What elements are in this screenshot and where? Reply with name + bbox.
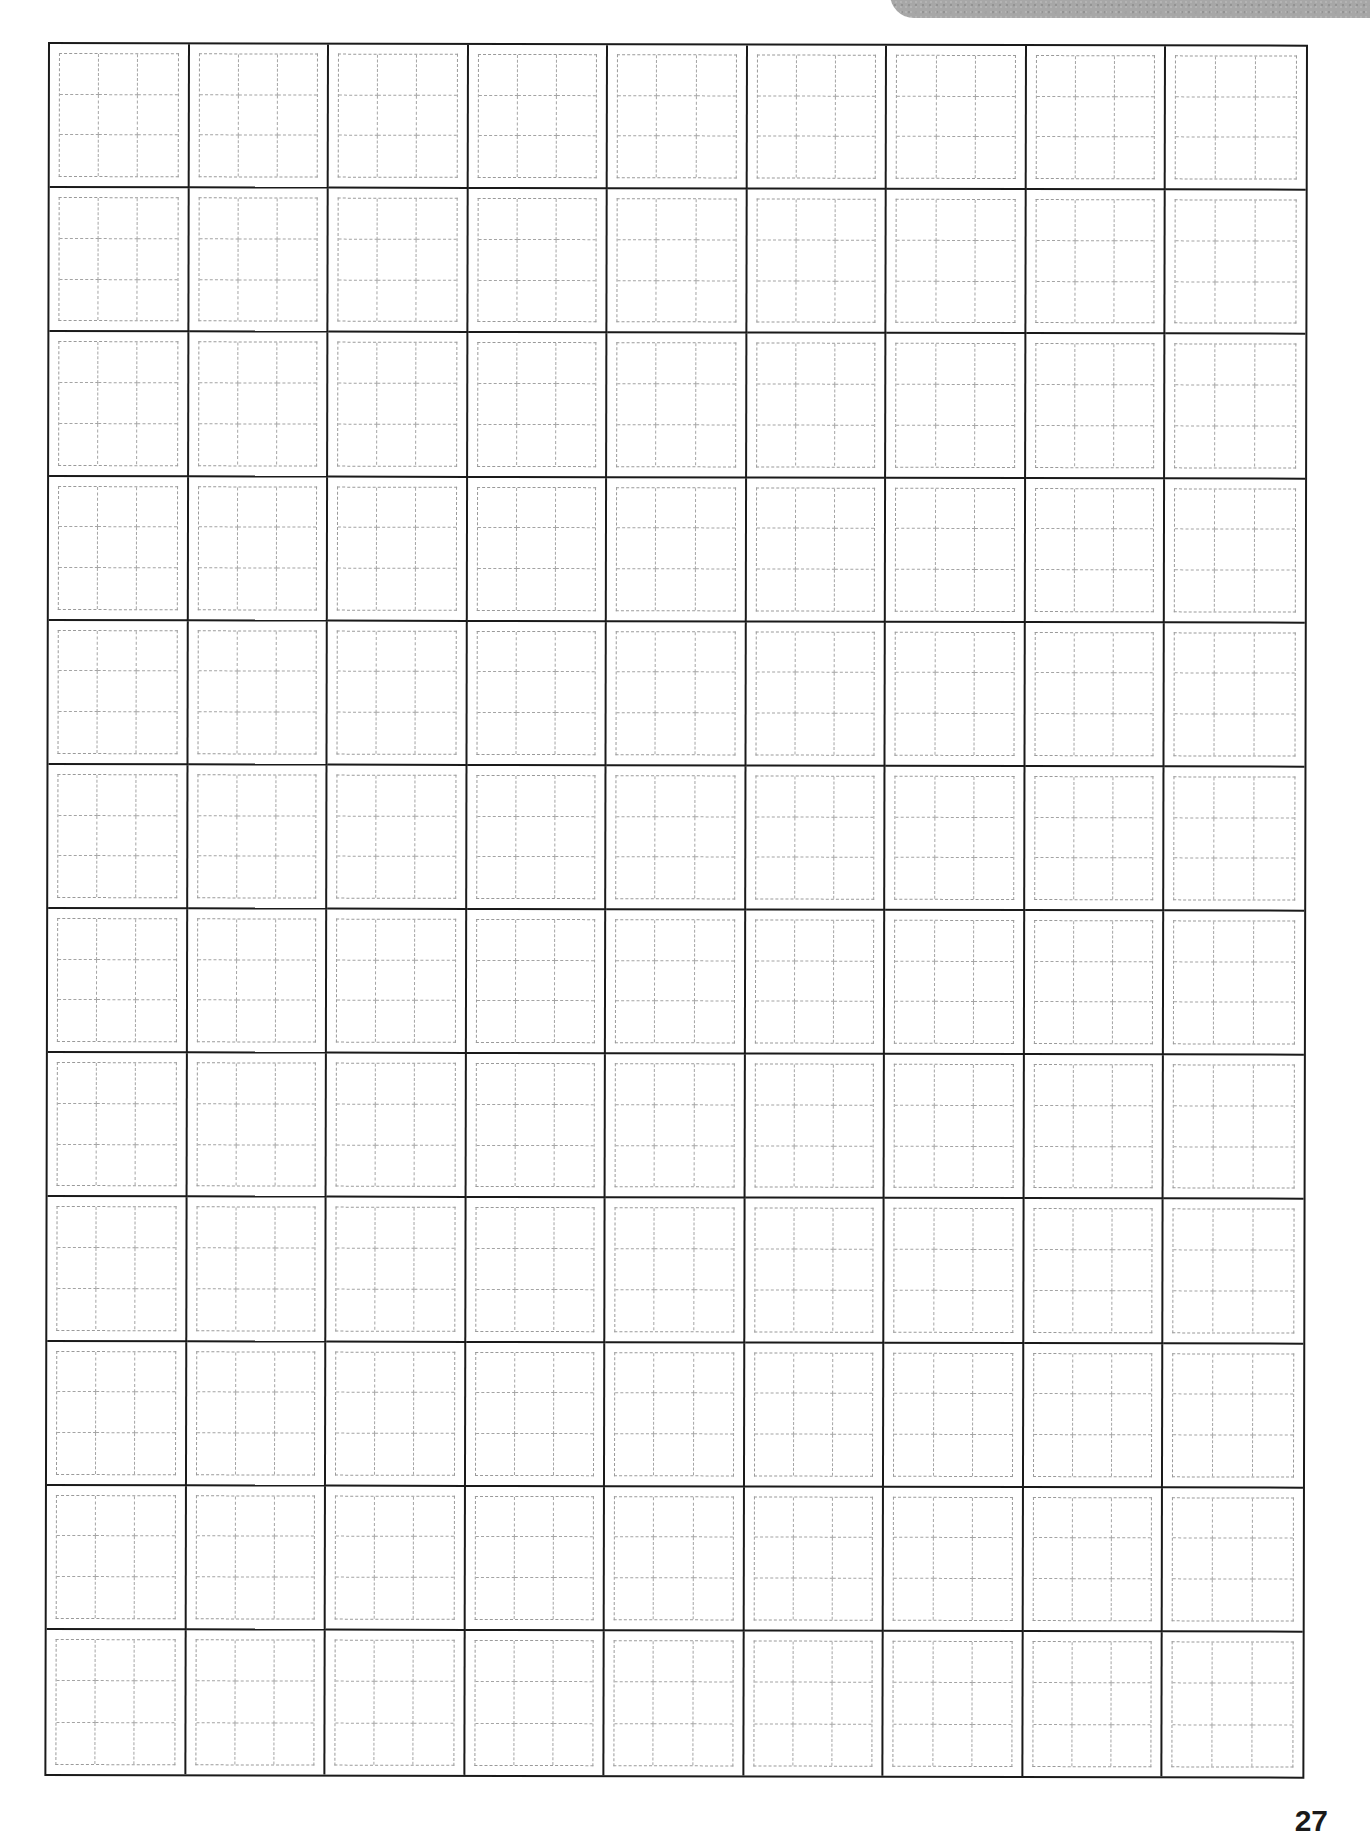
cell-guide-square — [1073, 1683, 1112, 1724]
cell-guide-square — [277, 631, 316, 672]
cell-guide-square — [138, 280, 177, 321]
cell-guide-square — [96, 1352, 135, 1393]
cell-guide-square — [1113, 921, 1152, 962]
cell-guide-square — [554, 1578, 593, 1619]
cell-guide-square — [338, 528, 377, 569]
cell-guide-square — [1174, 962, 1214, 1003]
cell-guide-square — [896, 777, 935, 818]
cell-guide-square — [794, 1250, 833, 1291]
cell-guide-square — [1213, 1725, 1253, 1766]
cell-guide-square — [477, 569, 516, 610]
cell-guide-square — [1075, 570, 1114, 611]
cell-guide-square — [934, 1394, 973, 1435]
cell-guide-box — [337, 630, 457, 754]
cell-guide-square — [1073, 1642, 1112, 1683]
cell-guide-square — [1114, 570, 1153, 611]
cell-guide-square — [554, 1353, 593, 1394]
cell-guide-square — [1176, 426, 1216, 467]
cell-guide-box — [895, 776, 1015, 900]
cell-guide-square — [656, 776, 695, 817]
grid-cell — [328, 333, 468, 477]
cell-guide-square — [1034, 1147, 1073, 1188]
grid-cell — [1166, 335, 1306, 479]
header-tab — [890, 0, 1370, 18]
cell-guide-square — [59, 383, 98, 424]
cell-guide-square — [60, 239, 99, 280]
grid-cell — [607, 478, 747, 622]
cell-guide-box — [616, 487, 736, 611]
cell-guide-square — [99, 136, 138, 177]
cell-guide-square — [377, 713, 416, 754]
cell-guide-square — [475, 1641, 514, 1682]
cell-guide-square — [275, 1249, 314, 1290]
cell-guide-square — [198, 528, 237, 569]
cell-guide-square — [377, 384, 416, 425]
cell-guide-square — [656, 858, 695, 899]
cell-guide-box — [338, 54, 458, 178]
cell-guide-square — [1173, 1435, 1213, 1476]
cell-guide-square — [1256, 138, 1296, 179]
cell-guide-square — [894, 1642, 933, 1683]
cell-guide-square — [514, 1641, 553, 1682]
cell-guide-square — [336, 1434, 375, 1475]
cell-guide-square — [1074, 921, 1113, 962]
cell-guide-square — [135, 1433, 174, 1474]
cell-guide-square — [516, 1105, 555, 1146]
cell-guide-square — [654, 1393, 693, 1434]
cell-guide-box — [1033, 1208, 1153, 1332]
cell-guide-square — [56, 1681, 95, 1722]
cell-guide-square — [895, 961, 934, 1002]
cell-guide-square — [1074, 1209, 1113, 1250]
cell-guide-square — [1215, 385, 1255, 426]
cell-guide-square — [834, 858, 873, 899]
cell-guide-square — [615, 1497, 654, 1538]
cell-guide-square — [1075, 426, 1114, 467]
cell-guide-box — [58, 197, 178, 321]
cell-guide-square — [1114, 489, 1153, 530]
cell-guide-square — [936, 241, 975, 282]
cell-guide-square — [975, 200, 1014, 241]
cell-guide-square — [654, 1682, 693, 1723]
cell-guide-square — [137, 487, 176, 528]
cell-guide-square — [694, 1065, 733, 1106]
cell-guide-square — [972, 1579, 1011, 1620]
cell-guide-square — [476, 1352, 515, 1393]
cell-guide-square — [236, 1537, 275, 1578]
cell-guide-square — [836, 281, 875, 322]
cell-guide-square — [478, 384, 517, 425]
cell-guide-square — [794, 1538, 833, 1579]
cell-guide-box — [198, 342, 318, 466]
cell-guide-square — [758, 55, 797, 96]
cell-guide-square — [556, 528, 595, 569]
page-number: 27 — [1295, 1806, 1328, 1835]
cell-guide-square — [755, 1209, 794, 1250]
cell-guide-square — [238, 136, 277, 177]
cell-guide-square — [97, 960, 136, 1001]
cell-guide-square — [415, 1001, 454, 1042]
cell-guide-square — [793, 1724, 832, 1765]
cell-guide-square — [896, 817, 935, 858]
cell-guide-square — [556, 281, 595, 322]
cell-guide-square — [795, 817, 834, 858]
cell-guide-square — [1214, 921, 1254, 962]
cell-guide-box — [196, 1207, 316, 1331]
cell-guide-square — [1112, 1498, 1151, 1539]
cell-guide-square — [1255, 426, 1295, 467]
cell-guide-box — [615, 775, 735, 899]
cell-guide-square — [616, 1002, 655, 1043]
cell-guide-square — [198, 960, 237, 1001]
cell-guide-square — [1256, 282, 1296, 323]
cell-guide-square — [616, 1064, 655, 1105]
grid-cell — [186, 1630, 326, 1774]
cell-guide-square — [694, 1434, 733, 1475]
cell-guide-square — [895, 1065, 934, 1106]
grid-cell — [48, 909, 188, 1053]
cell-guide-box — [755, 775, 875, 899]
cell-guide-square — [617, 632, 656, 673]
cell-guide-square — [757, 569, 796, 610]
cell-guide-square — [276, 775, 315, 816]
cell-guide-square — [97, 919, 136, 960]
cell-guide-box — [756, 343, 876, 467]
cell-guide-box — [1033, 1353, 1153, 1477]
cell-guide-square — [1215, 674, 1255, 715]
